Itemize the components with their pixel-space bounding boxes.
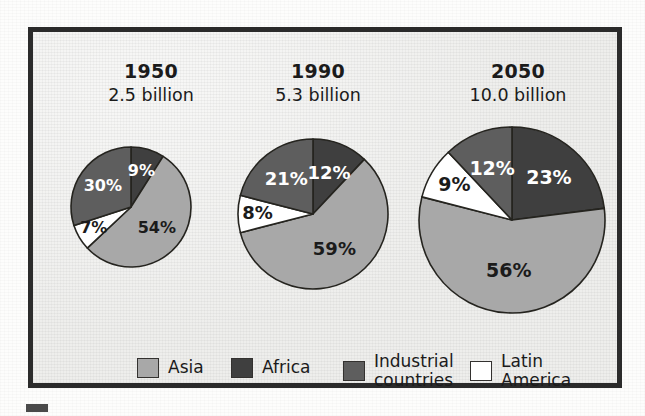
pie-slice-label-industrial-countries-2050: 12%	[469, 157, 514, 179]
legend-swatch-africa	[231, 358, 253, 378]
figure-root: 1950 2.5 billion 1990 5.3 billion 2050 1…	[0, 0, 645, 416]
legend-swatch-latin-america	[470, 361, 492, 381]
pie-slice-label-asia-2050: 56%	[486, 259, 531, 281]
pie-slice-label-industrial-countries-1950: 30%	[84, 176, 122, 195]
pie-svg-2050: 23%56%9%12%	[416, 124, 608, 316]
pie-chart-1990: 12%59%8%21%	[235, 136, 391, 292]
pie-chart-2050: 23%56%9%12%	[416, 124, 608, 316]
chart-title-2050: 2050 10.0 billion	[433, 60, 603, 107]
chart-year-2050: 2050	[433, 60, 603, 83]
pie-slice-label-africa-1950: 9%	[128, 161, 155, 180]
pie-slice-label-africa-2050: 23%	[526, 166, 571, 188]
chart-title-1990: 1990 5.3 billion	[238, 60, 398, 107]
legend-label-latin-america: Latin America	[501, 352, 571, 390]
pie-slice-label-latin-america-1950: 7%	[80, 218, 107, 237]
legend-swatch-industrial-countries	[343, 361, 365, 381]
legend-item-africa[interactable]: Africa	[231, 358, 311, 378]
pie-slice-label-asia-1950: 54%	[138, 218, 176, 237]
pie-chart-1950: 9%54%7%30%	[68, 144, 194, 270]
legend: Asia Africa Industrial countries Latin A…	[71, 350, 611, 402]
legend-label-industrial-countries: Industrial countries	[374, 352, 454, 390]
pie-slice-label-latin-america-1990: 8%	[242, 202, 273, 223]
legend-label-asia: Asia	[168, 358, 204, 377]
pie-slice-label-asia-1990: 59%	[313, 238, 356, 259]
pie-slice-label-industrial-countries-1990: 21%	[265, 168, 308, 189]
chart-year-1950: 1950	[71, 60, 231, 83]
chart-title-1950: 1950 2.5 billion	[71, 60, 231, 107]
pie-svg-1990: 12%59%8%21%	[235, 136, 391, 292]
chart-population-1990: 5.3 billion	[238, 85, 398, 106]
scan-edge-artifact	[26, 404, 48, 412]
legend-item-asia[interactable]: Asia	[137, 358, 204, 378]
legend-swatch-asia	[137, 358, 159, 378]
chart-population-2050: 10.0 billion	[433, 85, 603, 106]
pie-slice-label-africa-1990: 12%	[307, 162, 350, 183]
figure-frame: 1950 2.5 billion 1990 5.3 billion 2050 1…	[28, 27, 622, 388]
chart-year-1990: 1990	[238, 60, 398, 83]
legend-item-latin-america[interactable]: Latin America	[470, 352, 571, 390]
legend-item-industrial-countries[interactable]: Industrial countries	[343, 352, 454, 390]
pie-slice-label-latin-america-2050: 9%	[438, 173, 470, 195]
chart-population-1950: 2.5 billion	[71, 85, 231, 106]
pie-svg-1950: 9%54%7%30%	[68, 144, 194, 270]
legend-label-africa: Africa	[262, 358, 311, 377]
